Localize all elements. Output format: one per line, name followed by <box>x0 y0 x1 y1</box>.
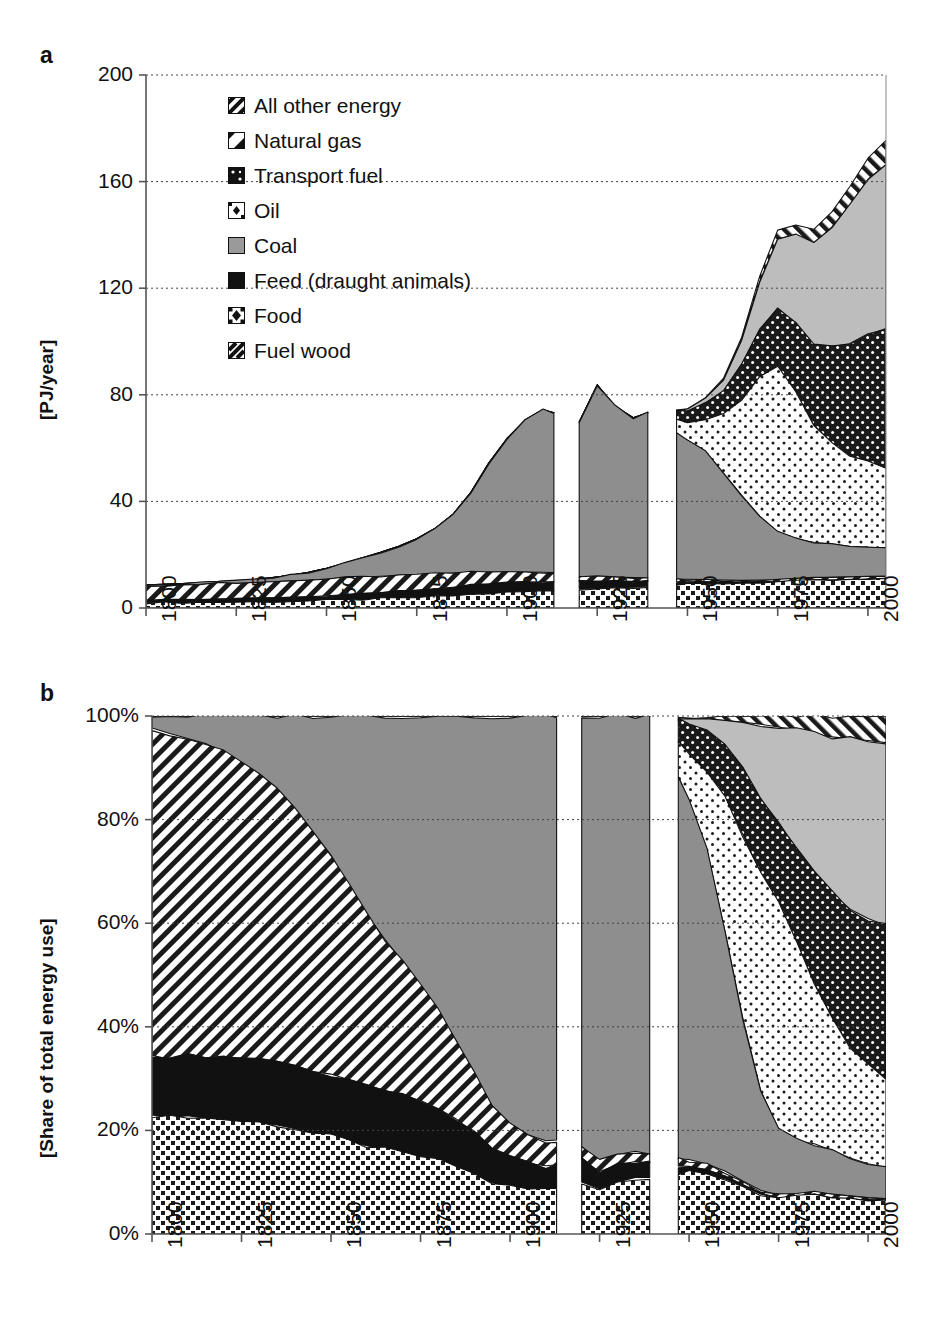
panel-a-x-tick-1950: 1950 <box>698 575 722 622</box>
panel-a-x-tick-1800: 1800 <box>157 575 181 622</box>
legend-label-wood: Fuel wood <box>254 340 351 361</box>
legend-swatch-transport-icon <box>228 167 245 184</box>
legend-item-wood: Fuel wood <box>228 333 558 368</box>
panel-b-y-tick-60: 60% <box>97 910 139 934</box>
panel-a-x-tick-1975: 1975 <box>789 575 813 622</box>
legend-label-gas: Natural gas <box>254 130 361 151</box>
legend-swatch-food-icon <box>228 307 245 324</box>
legend-item-other: All other energy <box>228 88 558 123</box>
legend-item-coal: Coal <box>228 228 558 263</box>
panel-b-x-tick-1975: 1975 <box>790 1201 814 1248</box>
panel-a-x-tick-2000: 2000 <box>879 575 903 622</box>
panel-a-x-tick-1900: 1900 <box>518 575 542 622</box>
figure-energy-transition: a [PJ/year] <box>0 0 940 1327</box>
panel-b-y-tick-100: 100% <box>85 703 139 727</box>
legend-item-gas: Natural gas <box>228 123 558 158</box>
panel-a-x-tick-1850: 1850 <box>337 575 361 622</box>
legend-label-feed: Feed (draught animals) <box>254 270 471 291</box>
legend-swatch-wood-icon <box>228 342 245 359</box>
legend-label-other: All other energy <box>254 95 401 116</box>
legend: All other energyNatural gasTransport fue… <box>228 88 558 368</box>
panel-a-y-tick-80: 80 <box>110 382 133 406</box>
legend-item-food: Food <box>228 298 558 333</box>
panel-b-y-tick-80: 80% <box>97 807 139 831</box>
panel-b-x-tick-1925: 1925 <box>611 1201 635 1248</box>
panel-b-x-tick-1950: 1950 <box>700 1201 724 1248</box>
panel-a-y-tick-160: 160 <box>98 169 133 193</box>
panel-a-x-tick-1875: 1875 <box>428 575 452 622</box>
panel-b-x-tick-1800: 1800 <box>163 1201 187 1248</box>
panel-a-y-tick-40: 40 <box>110 488 133 512</box>
legend-swatch-oil-icon <box>228 202 245 219</box>
panel-b-x-tick-1875: 1875 <box>432 1201 456 1248</box>
legend-swatch-coal-icon <box>228 237 245 254</box>
panel-b-areas <box>152 713 886 1234</box>
panel-b-x-tick-2000: 2000 <box>879 1201 903 1248</box>
panel-a-y-tick-120: 120 <box>98 275 133 299</box>
legend-swatch-feed-icon <box>228 272 245 289</box>
legend-label-coal: Coal <box>254 235 297 256</box>
legend-swatch-other-icon <box>228 97 245 114</box>
legend-label-transport: Transport fuel <box>254 165 383 186</box>
panel-b-y-tick-20: 20% <box>97 1117 139 1141</box>
legend-item-oil: Oil <box>228 193 558 228</box>
panel-b-x-tick-1825: 1825 <box>253 1201 277 1248</box>
legend-label-food: Food <box>254 305 302 326</box>
panel-b-y-tick-40: 40% <box>97 1014 139 1038</box>
panel-a-x-tick-1925: 1925 <box>608 575 632 622</box>
panel-b-y-tick-0: 0% <box>109 1221 139 1245</box>
panel-a-x-tick-1825: 1825 <box>247 575 271 622</box>
panel-a-y-tick-0: 0 <box>121 595 133 619</box>
panel-a-y-tick-200: 200 <box>98 62 133 86</box>
legend-item-feed: Feed (draught animals) <box>228 263 558 298</box>
panel-b-x-tick-1900: 1900 <box>521 1201 545 1248</box>
legend-item-transport: Transport fuel <box>228 158 558 193</box>
legend-swatch-gas-icon <box>228 132 245 149</box>
panel-b-x-tick-1850: 1850 <box>342 1201 366 1248</box>
legend-label-oil: Oil <box>254 200 280 221</box>
